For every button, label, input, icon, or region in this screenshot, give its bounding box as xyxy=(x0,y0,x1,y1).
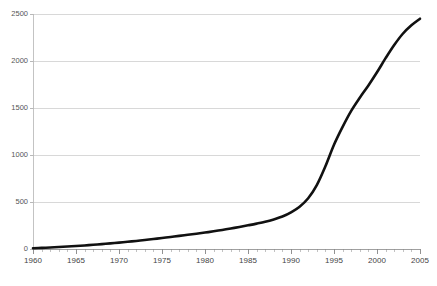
caption-ghost-text xyxy=(40,277,400,285)
y-tick-label-500: 500 xyxy=(15,197,28,206)
data-line-series-1 xyxy=(33,19,420,249)
x-axis-labels: 1960196519701975198019851990199520002005 xyxy=(24,256,429,265)
x-tick-label-1975: 1975 xyxy=(153,256,171,265)
y-tick-label-0: 0 xyxy=(24,244,28,253)
y-tick-label-2000: 2000 xyxy=(11,56,28,65)
x-tick-label-2005: 2005 xyxy=(411,256,429,265)
x-tick-label-1985: 1985 xyxy=(239,256,257,265)
y-tick-label-2500: 2500 xyxy=(11,9,28,18)
x-tick-label-2000: 2000 xyxy=(368,256,386,265)
y-axis-ticks xyxy=(30,15,33,250)
x-tick-label-1980: 1980 xyxy=(196,256,214,265)
x-tick-label-1990: 1990 xyxy=(282,256,300,265)
y-tick-label-1500: 1500 xyxy=(11,103,28,112)
x-tick-label-1970: 1970 xyxy=(110,256,128,265)
gridlines xyxy=(33,15,420,203)
x-tick-label-1995: 1995 xyxy=(325,256,343,265)
x-tick-label-1965: 1965 xyxy=(67,256,85,265)
x-tick-label-1960: 1960 xyxy=(24,256,42,265)
y-tick-label-1000: 1000 xyxy=(11,150,28,159)
y-axis-labels: 05001000150020002500 xyxy=(11,9,28,253)
line-chart: 05001000150020002500 1960196519701975198… xyxy=(0,0,437,286)
chart-canvas: 05001000150020002500 1960196519701975198… xyxy=(0,0,437,286)
